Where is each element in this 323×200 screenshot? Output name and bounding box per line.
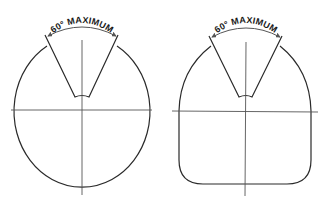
angle-label: 60° MAXIMUM — [49, 15, 115, 35]
ellipse-diagram: 60° MAXIMUM — [11, 15, 152, 195]
rounded-rectangle-diagram: 60° MAXIMUM — [172, 15, 318, 196]
angle-label: 60° MAXIMUM — [213, 15, 279, 35]
angle-diagram-canvas: 60° MAXIMUM 60° MAXIMUM — [0, 0, 323, 200]
horizontal-axis — [172, 111, 318, 112]
wedge-outline — [45, 35, 118, 97]
vertical-axis — [245, 42, 246, 196]
